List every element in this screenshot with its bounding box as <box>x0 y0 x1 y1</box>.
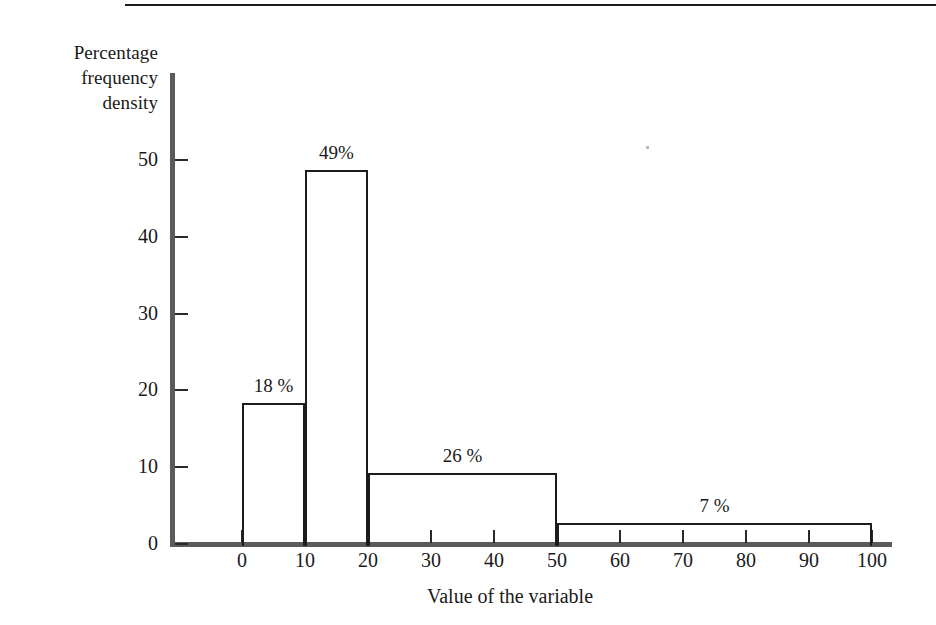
y-tick-20 <box>175 389 188 391</box>
x-tick-label-0: 0 <box>219 549 265 571</box>
y-tick-label-30: 30 <box>112 303 158 323</box>
x-tick-label-70: 70 <box>660 549 706 571</box>
histogram-bar <box>305 170 368 546</box>
histogram-bar <box>557 523 872 546</box>
scan-speck <box>646 146 649 149</box>
y-tick-50 <box>175 159 188 161</box>
histogram-bar <box>242 403 305 546</box>
x-axis-title: Value of the variable <box>340 585 680 607</box>
y-tick-label-0: 0 <box>112 533 158 553</box>
y-tick-0 <box>175 543 188 545</box>
x-tick-label-30: 30 <box>408 549 454 571</box>
x-tick-label-10: 10 <box>282 549 328 571</box>
y-tick-10 <box>175 466 188 468</box>
bar-value-label: 49% <box>265 143 408 163</box>
x-tick-label-90: 90 <box>786 549 832 571</box>
x-tick-label-20: 20 <box>345 549 391 571</box>
x-tick-label-60: 60 <box>597 549 643 571</box>
x-tick-label-50: 50 <box>534 549 580 571</box>
x-tick-label-80: 80 <box>723 549 769 571</box>
y-axis-title: Percentage frequency density <box>22 40 158 115</box>
x-tick-label-100: 100 <box>849 549 895 571</box>
top-horizontal-rule <box>125 4 936 6</box>
histogram-figure: Percentage frequency density 01020304050… <box>0 0 936 625</box>
y-tick-30 <box>175 313 188 315</box>
x-tick-label-40: 40 <box>471 549 517 571</box>
bar-value-label: 7 % <box>517 496 912 516</box>
y-tick-label-10: 10 <box>112 456 158 476</box>
bar-value-label: 26 % <box>328 446 597 466</box>
y-axis-line <box>170 73 175 547</box>
y-tick-40 <box>175 236 188 238</box>
y-tick-label-50: 50 <box>112 149 158 169</box>
y-tick-label-40: 40 <box>112 226 158 246</box>
y-tick-label-20: 20 <box>112 379 158 399</box>
